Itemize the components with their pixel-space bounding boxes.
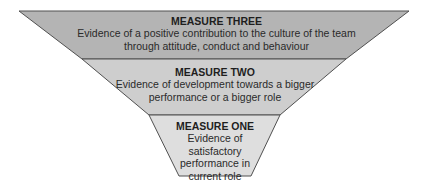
level-one-desc-line-4: current role bbox=[160, 170, 270, 183]
level-three-desc-line-1: Evidence of a positive contribution to t… bbox=[60, 27, 373, 40]
funnel-level-two-label: MEASURE TWO Evidence of development towa… bbox=[110, 66, 320, 103]
level-two-desc-line-2: performance or a bigger role bbox=[110, 91, 320, 104]
funnel-level-three-label: MEASURE THREE Evidence of a positive con… bbox=[60, 15, 373, 52]
level-two-title: MEASURE TWO bbox=[110, 66, 320, 78]
level-one-desc-line-3: performance in bbox=[160, 157, 270, 170]
level-two-desc-line-1: Evidence of development towards a bigger bbox=[110, 78, 320, 91]
level-three-desc-line-2: through attitude, conduct and behaviour bbox=[60, 40, 373, 53]
level-one-desc-line-1: Evidence of bbox=[160, 132, 270, 145]
funnel-level-one-label: MEASURE ONE Evidence of satisfactory per… bbox=[160, 120, 270, 182]
level-three-title: MEASURE THREE bbox=[60, 15, 373, 27]
level-one-title: MEASURE ONE bbox=[160, 120, 270, 132]
level-one-desc-line-2: satisfactory bbox=[160, 145, 270, 158]
